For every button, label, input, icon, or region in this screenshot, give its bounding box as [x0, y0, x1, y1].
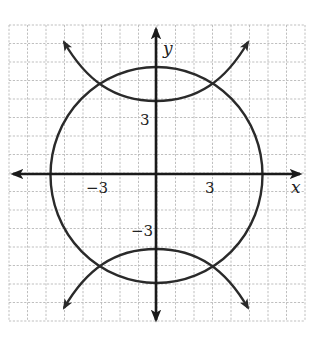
graph-figure: x y −3 3 3 −3 [0, 0, 315, 339]
y-tick-label-neg3: −3 [131, 222, 153, 240]
y-tick-label-3: 3 [140, 111, 150, 129]
x-tick-label-neg3: −3 [86, 179, 108, 197]
y-axis-label: y [162, 38, 173, 58]
x-axis-label: x [291, 177, 301, 197]
x-tick-label-3: 3 [205, 179, 215, 197]
